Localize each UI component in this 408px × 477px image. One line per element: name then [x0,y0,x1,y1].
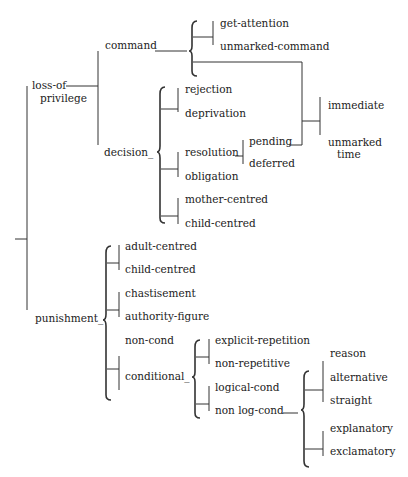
loss-of-privilege-node: loss-of privilege [32,51,98,145]
conditional-brace [192,340,200,418]
unmarked-command-label: unmarked-command [220,40,330,52]
logical-cond-label: logical-cond [215,381,280,393]
decision-node: decision_ rejection deprivation resoluti… [104,83,268,229]
time-label: time [337,148,361,160]
privilege-label: privilege [40,92,87,104]
child-centred-label: child-centred [185,217,256,229]
command-brace [189,21,197,76]
root-node [15,86,27,310]
loss-of-label: loss-of [32,79,67,91]
chastisement-label: chastisement [125,287,196,299]
reason-label: reason [330,347,366,359]
punishment-brace [103,246,111,400]
obligation-label: obligation [185,170,239,182]
non-log-cond-label: non log-cond [215,404,284,416]
exclamatory-label: exclamatory [330,445,395,457]
non-log-cond-node: reason alternative straight explanatory … [301,347,395,467]
deferred-label: deferred [249,157,295,169]
authority-figure-label: authority-figure [125,310,209,322]
alternative-label: alternative [330,371,388,383]
timing-node: immediate unmarked time [302,97,384,160]
resolution-label: resolution [185,146,239,158]
immediate-label: immediate [328,99,384,111]
get-attention-label: get-attention [220,17,289,29]
rejection-label: rejection [185,83,232,95]
decision-brace [157,87,165,223]
resolution-node: pending deferred [235,135,302,169]
explicit-repetition-label: explicit-repetition [215,334,310,346]
deprivation-label: deprivation [185,107,246,119]
command-to-timing-line [193,62,302,145]
punishment-node: punishment_ adult-centred child-centred … [35,240,209,400]
punishment-label: punishment_ [35,312,104,325]
mother-centred-label: mother-centred [185,193,268,205]
non-log-cond-brace [301,371,309,467]
child-centred-label-2: child-centred [125,263,196,275]
unmarked-label: unmarked [328,136,382,148]
explanatory-label: explanatory [330,422,393,434]
straight-label: straight [330,394,373,406]
command-label: command [105,39,157,51]
pending-label: pending [249,135,293,147]
conditional-node: explicit-repetition non-repetitive logic… [192,334,310,418]
system-network-diagram: loss-of privilege command get-attention … [0,0,408,477]
non-cond-label: non-cond [125,334,174,346]
non-repetitive-label: non-repetitive [215,357,290,369]
adult-centred-label: adult-centred [125,240,197,252]
decision-label: decision_ [104,146,154,159]
conditional-label: conditional_ [125,370,190,383]
command-node: command get-attention unmarked-command [105,17,330,145]
